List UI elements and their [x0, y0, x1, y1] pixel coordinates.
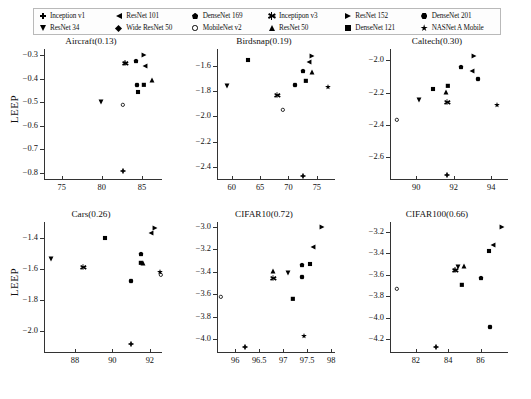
- plus-marker-icon: [242, 344, 247, 349]
- x-tick-label: 88: [71, 356, 79, 365]
- x-tick: [317, 176, 318, 180]
- y-tick-label: −1.6: [196, 62, 211, 70]
- x-tick: [102, 176, 103, 180]
- x-tick: [288, 176, 289, 180]
- triangle-down-marker-icon: [99, 100, 104, 105]
- plus-marker-icon: [40, 13, 46, 19]
- legend-item-resnet-50[interactable]: ResNet 50: [267, 23, 343, 34]
- data-point-resnet-152: [499, 224, 505, 230]
- data-point-mobilenet-v2: [394, 118, 399, 123]
- legend-item-densenet-121[interactable]: DenseNet 121: [343, 23, 419, 34]
- triangle-right-marker-icon: [345, 13, 351, 19]
- legend-item-label: DenseNet 169: [203, 11, 243, 22]
- data-point-nasnet-a-mobile: [156, 268, 163, 275]
- star5-marker-icon: [122, 60, 128, 66]
- x-tick-label: 97.5: [300, 356, 315, 365]
- y-tick: [386, 296, 390, 297]
- triangle-left-marker-icon: [143, 63, 148, 68]
- x-tick-label: 98: [327, 356, 335, 365]
- x-tick: [62, 176, 63, 180]
- data-point-nasnet-a-mobile: [493, 102, 500, 109]
- x-tick: [260, 176, 261, 180]
- data-point-densenet-121: [303, 78, 308, 83]
- y-tick: [386, 125, 390, 126]
- data-point-nasnet-a-mobile: [121, 59, 128, 66]
- legend-item-resnet-34[interactable]: ResNet 34: [38, 23, 114, 34]
- square-marker-icon: [343, 25, 352, 30]
- data-point-densenet-121: [459, 283, 464, 288]
- x-axis-line: [44, 352, 162, 353]
- square-marker-icon: [291, 297, 295, 301]
- legend-item-mobilenet-v2[interactable]: MobileNet v2: [191, 23, 267, 34]
- y-tick-label: −2.2: [196, 138, 211, 146]
- square-marker-icon: [141, 83, 145, 87]
- x-tick: [307, 349, 308, 353]
- data-point-resnet-152: [319, 224, 325, 230]
- y-tick: [386, 339, 390, 340]
- hexagon-marker-icon: [300, 275, 305, 280]
- legend-item-densenet-169[interactable]: DenseNet 169: [191, 11, 267, 22]
- data-point-nasnet-a-mobile: [300, 332, 307, 339]
- legend-item-label: ResNet 50: [279, 23, 308, 34]
- star5-marker-icon: [420, 24, 427, 31]
- x-tick-label: 85: [138, 183, 146, 192]
- triangle-left-marker-icon: [116, 13, 122, 19]
- x-tick-label: 82: [412, 356, 420, 365]
- data-point-resnet-101: [142, 63, 148, 69]
- subplot-birdsnap: Birdsnap(0.19)−1.6−1.8−2.0−2.2−2.4606570…: [179, 36, 349, 214]
- subplot-title: Birdsnap(0.19): [179, 36, 349, 47]
- legend-item-inceptipon-v3[interactable]: Inceptipon v3: [267, 11, 343, 22]
- legend-item-densenet-201[interactable]: DenseNet 201: [420, 11, 496, 22]
- legend-item-resnet-152[interactable]: ResNet 152: [343, 11, 419, 22]
- y-tick-label: −1.8: [23, 296, 38, 304]
- triangle-right-marker-icon: [141, 52, 146, 57]
- data-point-resnet-50: [309, 69, 315, 75]
- x-tick: [75, 349, 76, 353]
- y-tick-label: −1.6: [23, 265, 38, 273]
- plus-marker-icon: [38, 13, 47, 19]
- legend-item-inception-v1[interactable]: Inception v1: [38, 11, 114, 22]
- y-tick-label: −1.4: [23, 234, 38, 242]
- data-point-densenet-201: [475, 76, 481, 82]
- y-axis-line: [217, 222, 218, 353]
- star6-marker-icon: [274, 92, 280, 98]
- x-tick: [232, 176, 233, 180]
- y-tick-label: −3.6: [196, 290, 211, 298]
- x-tick-label: 86: [476, 356, 484, 365]
- y-tick: [213, 91, 217, 92]
- triangle-left-marker-icon: [114, 13, 123, 19]
- data-point-inceptipon-v3: [80, 264, 87, 271]
- data-point-resnet-101: [310, 244, 316, 250]
- data-point-densenet-169: [133, 58, 139, 64]
- y-tick: [213, 294, 217, 295]
- data-point-resnet-34: [48, 256, 54, 262]
- triangle-up-marker-icon: [271, 269, 276, 274]
- star6-marker-icon: [267, 13, 276, 20]
- star6-marker-icon: [444, 99, 450, 105]
- subplot-caltech: Caltech(0.30)−2.0−2.2−2.4−2.6909294: [352, 36, 522, 214]
- x-tick-label: 75: [313, 183, 321, 192]
- data-point-densenet-201: [487, 324, 493, 330]
- subplot-title: Cars(0.26): [6, 209, 176, 220]
- diamond-marker-icon: [308, 262, 312, 266]
- y-tick: [213, 66, 217, 67]
- legend-item-nasnet-a-mobile[interactable]: NASNet A Mobile: [420, 23, 496, 34]
- triangle-down-marker-icon: [38, 25, 47, 31]
- triangle-up-marker-icon: [444, 90, 449, 95]
- x-tick: [283, 349, 284, 353]
- hexagon-marker-icon: [488, 325, 493, 330]
- legend-item-resnet-101[interactable]: ResNet 101: [114, 11, 190, 22]
- x-tick: [416, 176, 417, 180]
- data-point-wide-resnet-50: [103, 235, 108, 240]
- y-tick-label: −2.0: [196, 112, 211, 120]
- y-tick: [40, 126, 44, 127]
- x-tick-label: 65: [256, 183, 264, 192]
- legend-item-wide-resnet-50[interactable]: Wide ResNet 50: [114, 23, 190, 34]
- data-point-resnet-50: [443, 89, 449, 95]
- y-tick: [213, 167, 217, 168]
- y-tick-label: −2.0: [23, 327, 38, 335]
- y-tick: [40, 173, 44, 174]
- y-tick: [40, 79, 44, 80]
- hexagon-marker-icon: [134, 82, 139, 87]
- pentagon-marker-icon: [299, 262, 304, 267]
